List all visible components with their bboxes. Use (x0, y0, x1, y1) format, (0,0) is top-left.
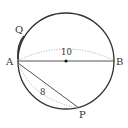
label-b: B (116, 56, 123, 67)
measure-ab: 10 (61, 47, 72, 57)
center-point (65, 60, 68, 63)
measure-ap: 8 (40, 87, 45, 97)
label-q: Q (15, 24, 23, 35)
label-a: A (5, 56, 14, 67)
label-p: P (79, 109, 86, 120)
circle-diagram: Q A B P 10 8 (0, 0, 128, 128)
chord-ap (18, 63, 79, 108)
